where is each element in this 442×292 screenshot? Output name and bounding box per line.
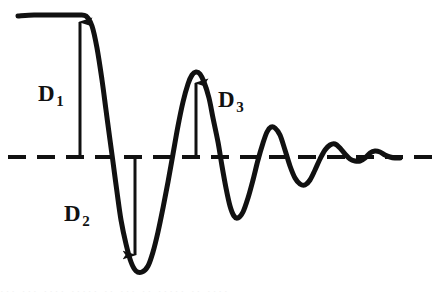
damped-oscillation-trace — [18, 15, 400, 273]
label-d1-subscript: 1 — [56, 93, 64, 109]
label-d3-subscript: 3 — [236, 99, 244, 115]
label-d2: D2 — [64, 202, 89, 225]
figure-canvas: D1 D2 D3 ··· ··· ···· ····· ·· ··· ·· ··… — [0, 0, 442, 292]
label-d3-base: D — [218, 87, 235, 112]
waveform-plot — [0, 0, 442, 292]
label-d1: D1 — [38, 82, 63, 105]
label-d3: D3 — [218, 88, 243, 111]
clipped-caption: ··· ··· ···· ····· ·· ··· ·· ····· ·· ··… — [0, 285, 442, 292]
label-d1-base: D — [38, 81, 55, 106]
label-d2-subscript: 2 — [82, 213, 90, 229]
label-d2-base: D — [64, 201, 81, 226]
